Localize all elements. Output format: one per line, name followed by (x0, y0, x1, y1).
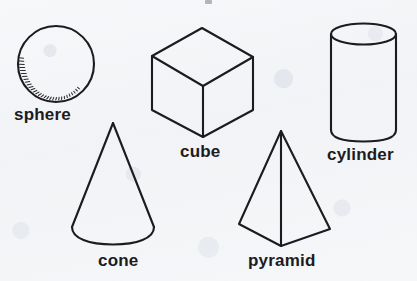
sphere-shading-hatch (19, 58, 80, 100)
sphere-shape (18, 26, 94, 102)
label-cone: cone (98, 252, 138, 269)
cone-shape (72, 123, 154, 245)
solids-diagram-page: sphere cube cylinder cone pyramid (0, 0, 417, 281)
label-sphere: sphere (14, 106, 71, 123)
cylinder-top-ellipse (331, 24, 396, 45)
cylinder-shape (331, 24, 396, 142)
cube-shape (152, 28, 253, 137)
sphere-outline (18, 26, 94, 102)
label-cylinder: cylinder (327, 146, 394, 163)
label-pyramid: pyramid (248, 252, 316, 269)
cube-inner-edge-top-left (152, 56, 203, 86)
label-cube: cube (180, 143, 220, 160)
pyramid-outline (239, 131, 330, 246)
cone-right-side (113, 123, 154, 227)
cylinder-bottom-arc (331, 130, 396, 142)
cone-base-arc (72, 227, 154, 245)
pyramid-shape (239, 131, 330, 246)
cone-left-side (72, 123, 113, 227)
cube-inner-edge-top-right (203, 57, 253, 86)
solids-figure (0, 0, 417, 281)
